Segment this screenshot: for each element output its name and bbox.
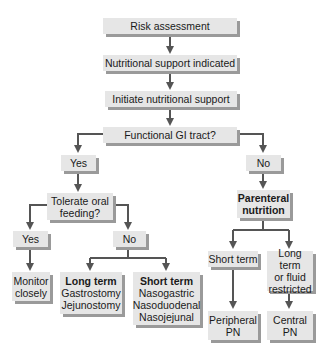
node-pn-long-term-fluid-restricted: Long term or fluid restricted bbox=[267, 251, 313, 291]
node-risk-assessment: Risk assessment bbox=[103, 18, 237, 34]
node-label: No bbox=[123, 233, 136, 245]
node-label-line2: nutrition bbox=[242, 204, 285, 216]
node-label-line2: or fluid bbox=[274, 271, 306, 283]
node-item: Nasogastric bbox=[139, 287, 194, 299]
node-label-line2: closely bbox=[15, 287, 47, 299]
node-gi-yes: Yes bbox=[61, 155, 96, 171]
node-tolerate-oral-feeding: Tolerate oral feeding? bbox=[47, 193, 113, 220]
node-label: Risk assessment bbox=[130, 20, 209, 32]
node-item: Gastrostomy bbox=[61, 287, 121, 299]
node-peripheral-pn: Peripheral PN bbox=[208, 311, 258, 340]
node-pn-short-term: Short term bbox=[208, 251, 258, 267]
node-label-line1: Peripheral bbox=[209, 314, 257, 326]
node-support-indicated: Nutritional support indicated bbox=[103, 55, 237, 71]
node-label: Nutritional support indicated bbox=[105, 57, 235, 69]
node-oral-no: No bbox=[113, 231, 146, 247]
node-item: Nasojejunal bbox=[139, 311, 194, 323]
node-initiate-support: Initiate nutritional support bbox=[105, 91, 237, 107]
node-label-line2: PN bbox=[226, 326, 241, 338]
node-label-line1: Central bbox=[273, 314, 307, 326]
node-label: Initiate nutritional support bbox=[112, 93, 229, 105]
node-label: Functional GI tract? bbox=[124, 129, 216, 141]
node-label-line1: Long term bbox=[267, 247, 313, 271]
node-label: Short term bbox=[208, 253, 257, 265]
node-label-line2: feeding? bbox=[60, 207, 100, 219]
node-label: No bbox=[257, 157, 270, 169]
node-item: Nasoduodenal bbox=[133, 299, 201, 311]
node-label-line1: Parenteral bbox=[238, 192, 289, 204]
node-functional-gi-tract: Functional GI tract? bbox=[103, 127, 237, 143]
node-gi-no: No bbox=[246, 155, 281, 171]
node-oral-yes: Yes bbox=[13, 231, 48, 247]
node-label-line1: Monitor bbox=[13, 275, 48, 287]
node-label: Yes bbox=[22, 233, 39, 245]
node-label-line1: Tolerate oral bbox=[51, 195, 109, 207]
node-title: Short term bbox=[140, 275, 193, 287]
node-parenteral-nutrition: Parenteral nutrition bbox=[237, 190, 290, 218]
node-short-term-enteral: Short term Nasogastric Nasoduodenal Naso… bbox=[133, 272, 200, 325]
node-label: Yes bbox=[70, 157, 87, 169]
node-item: Jejunostomy bbox=[62, 299, 121, 311]
node-title: Long term bbox=[65, 275, 116, 287]
node-central-pn: Central PN bbox=[267, 311, 313, 340]
node-label-line3: restricted bbox=[268, 283, 311, 295]
node-long-term-enteral: Long term Gastrostomy Jejunostomy bbox=[60, 272, 122, 314]
node-label-line2: PN bbox=[283, 326, 298, 338]
node-monitor-closely: Monitor closely bbox=[12, 272, 50, 301]
